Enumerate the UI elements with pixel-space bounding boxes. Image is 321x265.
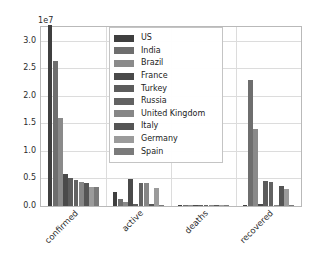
bar	[113, 192, 118, 206]
legend-swatch-icon	[114, 110, 134, 117]
y-axis-tick-label: 1.5	[2, 118, 36, 127]
bar	[178, 205, 183, 206]
bar	[63, 174, 68, 206]
legend-item[interactable]: United Kingdom	[114, 108, 217, 121]
legend-swatch-icon	[114, 123, 134, 130]
bar	[48, 25, 53, 206]
legend-swatch-icon	[114, 35, 134, 42]
legend-swatch-icon	[114, 73, 134, 80]
bar	[159, 205, 164, 206]
legend-swatch-icon	[114, 136, 134, 143]
legend-swatch-icon	[114, 47, 134, 54]
bar	[248, 80, 253, 206]
bar	[144, 183, 149, 206]
x-axis-tick-label: confirmed	[42, 208, 79, 245]
bar	[133, 204, 138, 206]
x-axis-tick-label: deaths	[182, 208, 210, 236]
bar	[258, 204, 263, 206]
bar	[183, 205, 188, 206]
legend-item[interactable]: Spain	[114, 145, 217, 158]
legend-swatch-icon	[114, 98, 134, 105]
bar	[89, 187, 94, 206]
y-axis-tick-label: 0.0	[2, 201, 36, 210]
bar	[269, 182, 274, 206]
y-axis-tick-label: 2.0	[2, 91, 36, 100]
bar-chart-figure: 1e7 0.00.51.01.52.02.53.0 confirmedactiv…	[0, 0, 321, 265]
bar	[128, 179, 133, 206]
bar	[279, 186, 284, 206]
legend-item-label: India	[141, 47, 161, 55]
bar	[149, 204, 154, 206]
x-axis-tick-label: recovered	[237, 208, 274, 245]
bar	[84, 183, 89, 206]
bar	[224, 205, 229, 206]
y-axis-tick-label: 2.5	[2, 63, 36, 72]
y-axis-tick-label: 1.0	[2, 146, 36, 155]
legend-swatch-icon	[114, 148, 134, 155]
legend-item[interactable]: Brazil	[114, 57, 217, 70]
x-axis-tick-label: active	[119, 208, 144, 233]
legend-item-label: United Kingdom	[141, 110, 205, 118]
bar	[243, 205, 248, 206]
bar	[284, 189, 289, 206]
legend: USIndiaBrazilFranceTurkeyRussiaUnited Ki…	[109, 27, 223, 163]
legend-item-label: France	[141, 72, 168, 80]
bar	[154, 188, 159, 206]
y-axis-exponent-label: 1e7	[38, 16, 53, 25]
bar	[289, 205, 294, 206]
bar	[123, 202, 128, 206]
legend-item-label: Brazil	[141, 59, 163, 67]
legend-swatch-icon	[114, 85, 134, 92]
legend-item-label: Italy	[141, 122, 158, 130]
legend-item-label: Spain	[141, 148, 163, 156]
bar	[68, 178, 73, 206]
y-axis-tick-label: 0.5	[2, 173, 36, 182]
legend-item-label: Germany	[141, 135, 178, 143]
bar	[74, 180, 79, 206]
legend-item[interactable]: India	[114, 45, 217, 58]
legend-item[interactable]: Italy	[114, 120, 217, 133]
x-axis-tick-labels: confirmedactivedeathsrecovered	[40, 208, 302, 265]
legend-item-label: Turkey	[141, 85, 167, 93]
legend-item[interactable]: France	[114, 70, 217, 83]
bar	[253, 129, 258, 206]
legend-item-label: Russia	[141, 97, 167, 105]
bar	[94, 187, 99, 206]
legend-item[interactable]: Germany	[114, 133, 217, 146]
bar	[219, 205, 224, 206]
bar	[198, 205, 203, 206]
legend-swatch-icon	[114, 60, 134, 67]
legend-item-label: US	[141, 34, 152, 42]
bar	[263, 181, 268, 206]
bar	[58, 118, 63, 206]
legend-item[interactable]: Russia	[114, 95, 217, 108]
bar	[118, 199, 123, 206]
bar	[188, 205, 193, 206]
bar	[53, 61, 58, 206]
legend-item[interactable]: US	[114, 32, 217, 45]
bar	[204, 205, 209, 206]
bar	[139, 183, 144, 206]
bar	[193, 205, 198, 206]
bar	[214, 205, 219, 206]
bar	[79, 182, 84, 206]
bar	[274, 205, 279, 206]
y-axis-tick-label: 3.0	[2, 36, 36, 45]
legend-item[interactable]: Turkey	[114, 82, 217, 95]
bar	[209, 205, 214, 206]
